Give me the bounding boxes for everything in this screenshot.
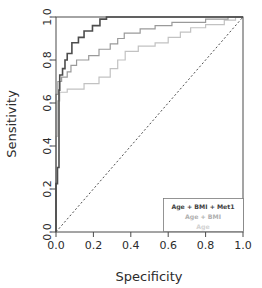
y-axis-ticks: 0.00.20.40.60.81.0 (41, 8, 57, 241)
y-tick-label: 0.8 (41, 51, 54, 69)
x-tick-label: 1.0 (234, 239, 252, 252)
legend-entry-age-bmi: Age + BMI (185, 213, 221, 221)
x-axis-ticks: 0.00.20.40.60.81.0 (47, 232, 252, 252)
y-tick-label: 1.0 (41, 8, 54, 26)
x-tick-label: 0.4 (122, 239, 140, 252)
x-tick-label: 0.6 (159, 239, 177, 252)
x-axis-title: Specificity (116, 269, 183, 284)
x-tick-label: 0.8 (197, 239, 215, 252)
legend-entry-age: Age (196, 223, 209, 231)
legend: Age + BMI + Met1 Age + BMI Age (164, 199, 244, 232)
y-tick-label: 0.2 (41, 180, 54, 198)
y-tick-label: 0.0 (41, 223, 54, 241)
y-tick-label: 0.4 (41, 137, 54, 155)
y-tick-label: 0.6 (41, 94, 54, 112)
x-tick-label: 0.2 (85, 239, 103, 252)
y-axis-title: Sensitivity (4, 90, 19, 158)
roc-chart-figure: 0.00.20.40.60.81.0 0.00.20.40.60.81.0 Sp… (0, 0, 262, 288)
roc-plot-svg: 0.00.20.40.60.81.0 0.00.20.40.60.81.0 Sp… (0, 0, 262, 288)
legend-entry-age-bmi-met1: Age + BMI + Met1 (171, 203, 234, 211)
